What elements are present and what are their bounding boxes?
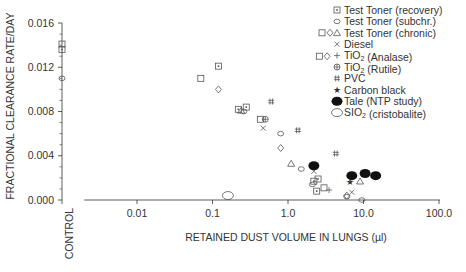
x-tick-label: 0.1 bbox=[205, 207, 220, 219]
square-dot-center bbox=[317, 178, 319, 180]
circle-marker-icon bbox=[298, 167, 304, 172]
legend-label: Carbon black bbox=[344, 84, 407, 96]
legend-label: SIO2 (cristobalite) bbox=[344, 106, 426, 120]
series-x bbox=[261, 126, 355, 195]
diamond-marker-icon bbox=[278, 145, 284, 152]
legend-label: Tale (NTP study) bbox=[344, 95, 422, 107]
triangle-marker-icon bbox=[357, 178, 364, 184]
open-ellipse-marker-icon bbox=[332, 109, 343, 117]
filled-ellipse-marker-icon bbox=[332, 97, 343, 106]
hash-marker-icon bbox=[334, 75, 340, 81]
diamond-marker-icon bbox=[215, 86, 221, 93]
series-square-dot bbox=[59, 47, 321, 195]
legend-label: Test Toner (recovery) bbox=[344, 4, 442, 16]
series-diamond bbox=[215, 53, 349, 199]
open-ellipse-marker-icon bbox=[222, 192, 233, 200]
legend-item: PVC bbox=[334, 72, 366, 84]
legend-item: SIO2 (cristobalite) bbox=[332, 106, 427, 120]
series-hash bbox=[268, 99, 339, 157]
square-marker-icon bbox=[198, 75, 204, 81]
legend-label: Diesel bbox=[344, 38, 373, 50]
legend-item: Diesel bbox=[335, 38, 374, 50]
plus-marker-icon bbox=[334, 53, 340, 59]
circle-marker-icon bbox=[278, 131, 284, 136]
series-circle-plus bbox=[262, 116, 268, 122]
square-dot-center bbox=[245, 106, 247, 108]
legend-label: PVC bbox=[344, 72, 366, 84]
legend-item: ★Carbon black bbox=[333, 84, 407, 96]
square-dot-center bbox=[336, 9, 338, 11]
triangle-marker-icon bbox=[288, 160, 295, 166]
x-marker-icon bbox=[349, 190, 354, 195]
square-dot-center bbox=[313, 180, 315, 182]
filled-ellipse-marker-icon bbox=[370, 171, 381, 180]
legend-label: Test Toner (subchr.) bbox=[344, 15, 436, 27]
square-dot-center bbox=[218, 65, 220, 67]
y-axis-label: FRACTIONAL CLEARANCE RATE/DAY bbox=[4, 12, 16, 199]
square-marker-icon bbox=[316, 53, 322, 59]
x-marker-icon bbox=[261, 126, 266, 131]
y-tick-label: 0.016 bbox=[28, 17, 54, 29]
diamond-marker-icon bbox=[327, 29, 333, 36]
triangle-marker-icon bbox=[334, 30, 341, 36]
circle-marker-icon bbox=[334, 19, 340, 24]
hash-marker-icon bbox=[333, 151, 339, 157]
hash-marker-icon bbox=[268, 99, 274, 105]
x-tick-label: 1.0 bbox=[281, 207, 296, 219]
y-tick-label: 0.008 bbox=[28, 105, 54, 117]
x-axis-label: RETAINED DUST VOLUME IN LUNGS (µl) bbox=[185, 231, 387, 243]
y-tick-label: 0.012 bbox=[28, 61, 54, 73]
legend-label: Test Toner (chronic) bbox=[344, 27, 436, 39]
square-dot-center bbox=[61, 49, 63, 51]
diamond-marker-icon bbox=[324, 53, 330, 60]
series-open-ellipse bbox=[222, 192, 233, 200]
legend-item: Test Toner (recovery) bbox=[334, 4, 442, 16]
control-label: CONTROL bbox=[63, 208, 75, 259]
plot-area: ★ bbox=[59, 41, 381, 202]
x-marker-icon bbox=[335, 42, 340, 47]
series-square bbox=[59, 41, 327, 191]
scatter-chart: 0.0000.0040.0080.0120.0160.010.11.010.01… bbox=[0, 0, 466, 272]
x-tick-label: 100.0 bbox=[426, 207, 452, 219]
x-tick-label: 0.01 bbox=[127, 207, 148, 219]
legend-item: Test Toner (chronic) bbox=[334, 27, 437, 39]
y-tick-label: 0.004 bbox=[28, 149, 54, 161]
star-marker-icon: ★ bbox=[333, 85, 341, 95]
square-dot-center bbox=[316, 190, 318, 192]
series-circle-small bbox=[59, 76, 365, 202]
legend-item: Test Toner (subchr.) bbox=[334, 15, 436, 27]
filled-ellipse-marker-icon bbox=[346, 171, 357, 180]
filled-ellipse-marker-icon bbox=[308, 161, 319, 170]
square-dot-center bbox=[238, 109, 240, 111]
series-filled-ellipse bbox=[308, 161, 381, 180]
series-triangle bbox=[238, 107, 364, 184]
x-tick-label: 10.0 bbox=[353, 207, 374, 219]
square-marker-icon bbox=[319, 30, 325, 36]
legend-item: Tale (NTP study) bbox=[332, 95, 423, 107]
filled-ellipse-marker-icon bbox=[360, 169, 371, 178]
hash-marker-icon bbox=[295, 127, 301, 133]
y-tick-label: 0.000 bbox=[28, 194, 54, 206]
legend: Test Toner (recovery)Test Toner (subchr.… bbox=[319, 4, 442, 121]
